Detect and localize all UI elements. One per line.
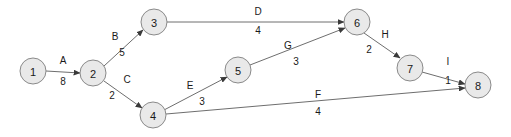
edge-label-H: H [381,29,388,40]
network-diagram-canvas: A8B5C2D4E3G3F4H2I1 12345678 [0,0,511,137]
edge-weight-F: 4 [315,106,321,117]
edge-label-I: I [447,56,450,67]
edge-label-C: C [123,74,130,85]
edge-line-I [422,72,465,84]
edge-weight-C: 2 [109,90,115,101]
node-label-1: 1 [30,66,36,78]
node-2[interactable]: 2 [80,60,106,86]
node-label-5: 5 [235,65,241,77]
node-label-3: 3 [151,17,157,29]
edge-D[interactable]: D4 [167,6,344,36]
node-5[interactable]: 5 [225,57,251,83]
edge-F[interactable]: F4 [166,88,465,117]
node-8[interactable]: 8 [465,72,491,98]
edge-weight-A: 8 [60,76,66,87]
edge-B[interactable]: B5 [104,30,143,66]
network-diagram-svg: A8B5C2D4E3G3F4H2I1 12345678 [0,0,511,137]
node-1[interactable]: 1 [20,58,46,84]
edge-weight-E: 3 [199,96,205,107]
edge-label-B: B [112,31,119,42]
edge-A[interactable]: A8 [46,55,80,87]
edge-I[interactable]: I1 [422,56,465,86]
edge-weight-I: 1 [445,75,451,86]
edge-label-D: D [254,6,261,17]
edge-C[interactable]: C2 [104,74,142,108]
edge-weight-G: 3 [293,56,299,67]
edge-label-G: G [284,40,292,51]
node-label-6: 6 [354,17,360,29]
node-7[interactable]: 7 [397,55,423,81]
edge-G[interactable]: G3 [250,28,345,67]
edge-E[interactable]: E3 [164,77,227,110]
node-3[interactable]: 3 [141,9,167,35]
node-label-8: 8 [475,80,481,92]
edge-line-A [46,71,80,73]
edge-weight-B: 5 [119,47,125,58]
node-6[interactable]: 6 [344,9,370,35]
edge-weight-H: 2 [366,44,372,55]
node-label-2: 2 [90,68,96,80]
edge-H[interactable]: H2 [364,29,400,58]
node-label-7: 7 [407,63,413,75]
edge-label-F: F [315,89,321,100]
edge-label-A: A [60,55,67,66]
node-label-4: 4 [150,110,156,122]
edge-weight-D: 4 [255,25,261,36]
edge-line-E [164,77,227,110]
node-4[interactable]: 4 [140,102,166,128]
edge-label-E: E [187,80,194,91]
